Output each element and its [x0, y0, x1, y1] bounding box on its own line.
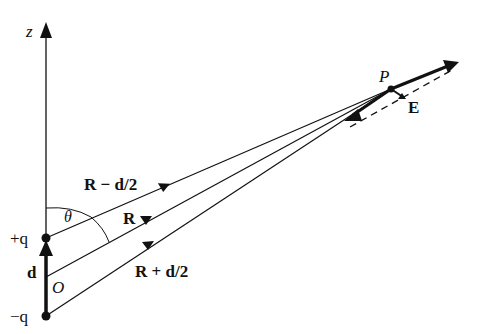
vector-r-label: R — [123, 209, 136, 228]
ray-r-minus-d2 — [46, 89, 391, 238]
point-p-label: P — [378, 67, 389, 86]
field-e-label: E — [408, 98, 419, 117]
z-axis-label: z — [25, 22, 33, 41]
vector-r-minus-d2-label: R − d/2 — [84, 175, 137, 194]
angle-theta-label: θ — [64, 208, 72, 225]
dipole-diagram: z P E R − d/2 R R + d/2 θ +q −q d O — [0, 0, 477, 334]
z-axis-arrowhead-icon — [40, 22, 52, 38]
origin-label: O — [52, 278, 64, 297]
positive-charge-label: +q — [10, 229, 29, 248]
ray-r-plus-d2 — [46, 89, 391, 316]
tangential-field-shaft — [353, 89, 391, 115]
dipole-vector-d — [39, 240, 53, 315]
negative-charge-label: −q — [10, 307, 29, 326]
point-p-dot — [388, 86, 395, 93]
dipole-d-label: d — [27, 263, 37, 282]
vector-r-plus-d2-label: R + d/2 — [135, 262, 188, 281]
ray-upper-arrowhead-icon — [158, 183, 170, 192]
